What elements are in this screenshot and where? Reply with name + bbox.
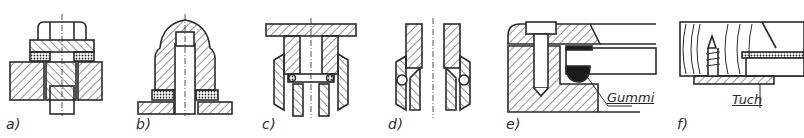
panel-c-drawing (266, 18, 356, 118)
panel-f-label: f) (677, 116, 688, 132)
panel-a-label: a) (6, 116, 21, 132)
panel-d-drawing (396, 18, 470, 118)
panel-b-drawing (138, 14, 232, 116)
gummi-annotation: Gummi (607, 90, 654, 105)
panel-c-label: c) (262, 116, 276, 132)
tuch-annotation: Tuch (732, 92, 762, 107)
panel-e-label: e) (506, 116, 521, 132)
panel-b-label: b) (136, 116, 151, 132)
panel-a-drawing (10, 14, 102, 116)
technical-drawing: a) b) c) d) e) f) Gummi Tuch (0, 0, 804, 138)
panel-d-label: d) (388, 116, 403, 132)
